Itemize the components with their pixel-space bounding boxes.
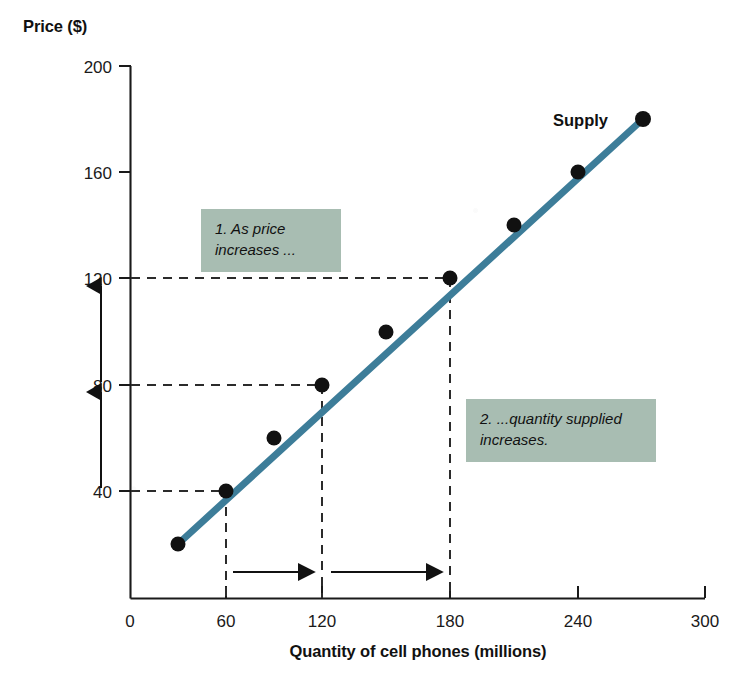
y-axis-tick-labels: 200 160 120 80 40	[84, 58, 112, 502]
y-tick-label-160: 160	[84, 164, 112, 183]
supply-curve-chart: 200 160 120 80 40 0 60 120 180 240 300 P…	[0, 0, 743, 679]
annotation-text-price-increases: 1. As price increases ...	[215, 218, 327, 261]
x-tick-label-300: 300	[691, 612, 719, 631]
data-point-210-140	[507, 218, 522, 233]
data-point-90-60	[267, 431, 282, 446]
data-point-150-100	[379, 325, 394, 340]
y-tick-label-120: 120	[84, 270, 112, 289]
supply-series-label: Supply	[553, 111, 609, 129]
data-point-120-80	[315, 378, 330, 393]
y-tick-label-40: 40	[93, 483, 112, 502]
y-tick-label-80: 80	[93, 377, 112, 396]
axis-frame	[131, 66, 706, 599]
annotation-box-quantity-increases: 2. ...quantity supplied increases.	[466, 399, 656, 462]
annotation-text-quantity-increases: 2. ...quantity supplied increases.	[480, 408, 642, 451]
data-point-60-40	[219, 484, 234, 499]
x-axis-ticks	[226, 586, 705, 598]
data-point-270-180	[635, 111, 651, 127]
supply-curve-line	[178, 119, 643, 544]
data-point-240-160	[571, 165, 586, 180]
chart-canvas: 200 160 120 80 40 0 60 120 180 240 300 P…	[0, 0, 743, 679]
data-point-180-120	[443, 271, 458, 286]
x-tick-label-60: 60	[217, 612, 236, 631]
data-point-30-20	[171, 537, 186, 552]
x-tick-label-180: 180	[436, 612, 464, 631]
x-tick-label-240: 240	[564, 612, 592, 631]
y-axis-ticks	[119, 66, 131, 491]
y-axis-title: Price ($)	[23, 17, 87, 35]
x-tick-label-0: 0	[125, 612, 134, 631]
y-tick-label-200: 200	[84, 58, 112, 77]
x-axis-tick-labels: 0 60 120 180 240 300	[125, 612, 719, 631]
x-axis-title: Quantity of cell phones (millions)	[290, 642, 547, 660]
x-tick-label-120: 120	[308, 612, 336, 631]
annotation-box-price-increases: 1. As price increases ...	[201, 209, 341, 272]
